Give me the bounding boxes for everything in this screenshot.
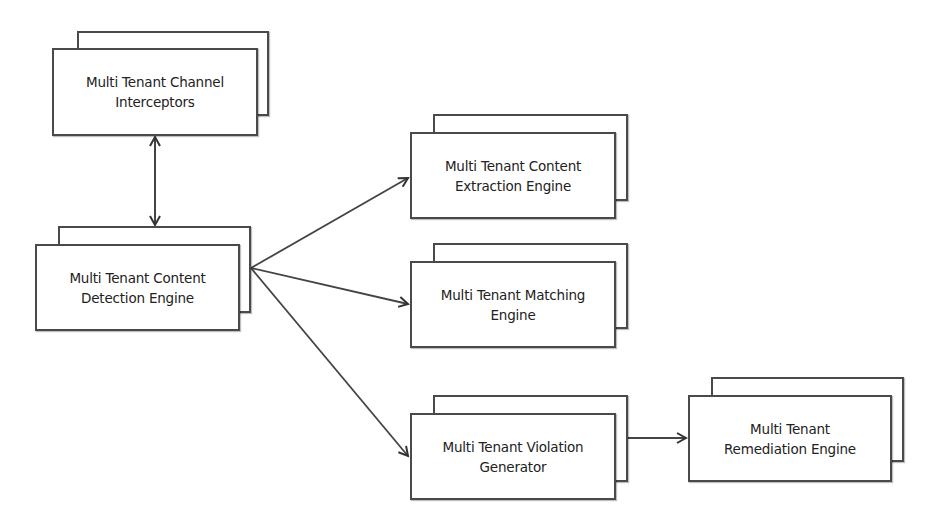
node-label: Multi Tenant Content Extraction Engine <box>445 156 581 196</box>
node-violation-generator: Multi Tenant Violation Generator <box>410 413 616 500</box>
node-label: Multi Tenant Matching Engine <box>441 285 585 325</box>
edge-detection-violation <box>251 268 408 456</box>
node-label: Multi Tenant Content Detection Engine <box>69 268 205 308</box>
node-channel-interceptors: Multi Tenant Channel Interceptors <box>52 48 258 136</box>
node-content-extraction: Multi Tenant Content Extraction Engine <box>410 132 616 219</box>
node-remediation: Multi Tenant Remediation Engine <box>688 395 892 482</box>
node-content-detection: Multi Tenant Content Detection Engine <box>35 244 240 331</box>
node-label: Multi Tenant Violation Generator <box>443 437 584 477</box>
edge-detection-matching <box>251 268 408 304</box>
edge-detection-extraction <box>251 178 408 268</box>
node-label: Multi Tenant Channel Interceptors <box>86 72 224 112</box>
node-label: Multi Tenant Remediation Engine <box>724 419 856 459</box>
node-matching: Multi Tenant Matching Engine <box>410 261 616 348</box>
